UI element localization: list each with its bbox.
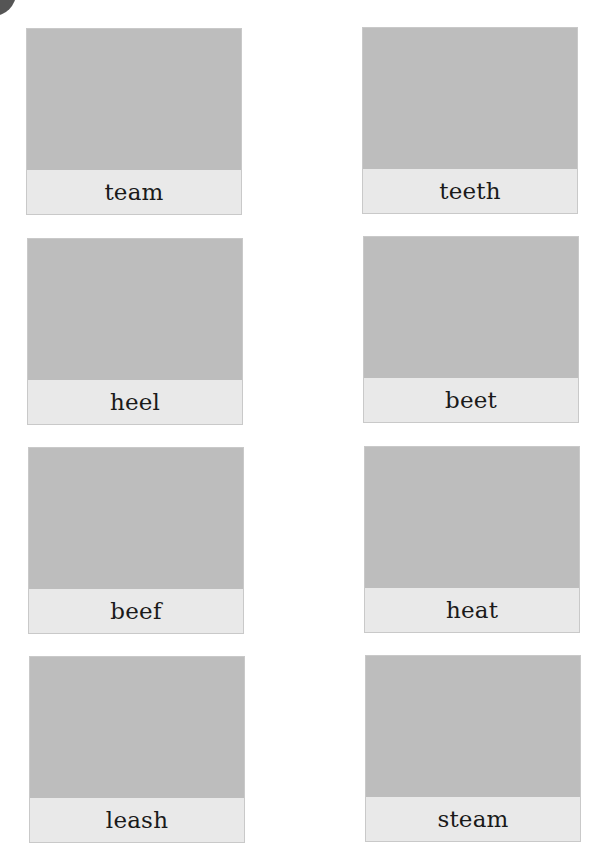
word-label: steam — [366, 797, 580, 841]
picture-placeholder — [28, 239, 242, 380]
picture-placeholder — [27, 29, 241, 170]
picture-placeholder — [29, 448, 243, 589]
word-card-teeth: teeth — [362, 27, 578, 214]
picture-placeholder — [364, 237, 578, 378]
word-card-beef: beef — [28, 447, 244, 634]
picture-placeholder — [365, 447, 579, 588]
word-label: team — [27, 170, 241, 214]
picture-placeholder — [366, 656, 580, 797]
word-card-beet: beet — [363, 236, 579, 423]
word-label: leash — [30, 798, 244, 842]
word-card-leash: leash — [29, 656, 245, 843]
picture-placeholder — [30, 657, 244, 798]
picture-placeholder — [363, 28, 577, 169]
word-label: teeth — [363, 169, 577, 213]
word-label: beef — [29, 589, 243, 633]
word-label: heel — [28, 380, 242, 424]
word-card-team: team — [26, 28, 242, 215]
word-card-heat: heat — [364, 446, 580, 633]
word-label: beet — [364, 378, 578, 422]
corner-decoration — [0, 0, 16, 16]
word-label: heat — [365, 588, 579, 632]
word-card-steam: steam — [365, 655, 581, 842]
word-card-heel: heel — [27, 238, 243, 425]
